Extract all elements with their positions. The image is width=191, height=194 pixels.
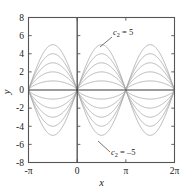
y-tick-label: 8 [19,13,24,23]
x-tick-label: π [123,166,128,176]
y-tick-label: -2 [16,103,24,113]
x-tick-labels: -π0π2π [25,166,180,176]
annotations-layer: c2 = 5 c2 = –5 [98,27,135,158]
y-tick-label: 6 [19,31,24,41]
annotation-label-lower: c2 = –5 [111,147,135,158]
annotation-c2-negative: c2 = –5 [98,141,135,158]
plot-svg: -π0π2π 86420-2-4-6-8 x y c2 = 5 c2 = –5 [0,0,191,194]
x-tick-label: -π [25,166,33,176]
annotation-c2-positive: c2 = 5 [100,27,133,47]
x-tick-label: 2π [170,166,180,176]
y-tick-label: 2 [19,67,24,77]
y-axis-title: y [1,89,12,95]
y-tick-labels: 86420-2-4-6-8 [16,13,24,168]
y-tick-label: 0 [19,85,24,95]
leader-line-upper [100,37,112,47]
y-tick-label: -8 [16,158,24,168]
y-tick-label: -4 [16,122,24,132]
annotation-label-upper: c2 = 5 [113,27,133,38]
axes-layer [29,18,175,163]
leader-line-lower [98,141,110,152]
y-tick-label: -6 [16,140,24,150]
x-axis-title: x [98,177,104,188]
y-tick-label: 4 [19,49,24,59]
x-tick-label: 0 [75,166,80,176]
chart-figure: -π0π2π 86420-2-4-6-8 x y c2 = 5 c2 = –5 [0,0,191,194]
